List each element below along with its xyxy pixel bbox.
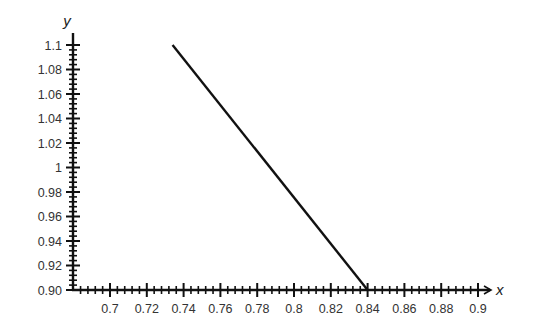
- x-tick-label: 0.9: [469, 302, 486, 316]
- x-axis-ticks: 0.70.720.740.760.780.80.820.840.860.880.…: [81, 283, 487, 316]
- x-tick-label: 0.8: [285, 302, 302, 316]
- y-tick-label: 0.98: [38, 186, 62, 200]
- x-tick-label: 0.74: [171, 302, 195, 316]
- y-tick-label: 0.94: [38, 235, 62, 249]
- x-tick-label: 0.88: [429, 302, 453, 316]
- x-tick-label: 0.78: [245, 302, 269, 316]
- y-tick-label: 0.92: [38, 259, 62, 273]
- x-tick-label: 0.84: [355, 302, 379, 316]
- series-line: [173, 45, 368, 290]
- line-chart: 0.900.920.940.960.9811.021.041.061.081.1…: [0, 0, 533, 325]
- y-tick-label: 1.04: [38, 112, 62, 126]
- data-series: [173, 45, 368, 290]
- y-tick-label: 1: [55, 161, 62, 175]
- y-tick-label: 0.90: [38, 284, 62, 298]
- x-tick-label: 0.82: [319, 302, 343, 316]
- y-tick-label: 1.1: [45, 39, 62, 53]
- x-tick-label: 0.76: [208, 302, 232, 316]
- x-tick-label: 0.7: [101, 302, 118, 316]
- y-tick-label: 1.06: [38, 88, 62, 102]
- y-tick-label: 1.08: [38, 63, 62, 77]
- x-tick-label: 0.86: [392, 302, 416, 316]
- y-axis-title: y: [62, 12, 72, 29]
- y-tick-label: 1.02: [38, 137, 62, 151]
- x-tick-label: 0.72: [135, 302, 159, 316]
- y-tick-label: 0.96: [38, 210, 62, 224]
- x-axis-title: x: [495, 281, 504, 298]
